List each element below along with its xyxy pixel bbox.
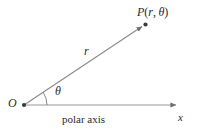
origin-label: O [8, 97, 17, 109]
origin-point-dot [22, 103, 26, 107]
radius-label: r [84, 45, 89, 57]
x-axis-label: x [178, 112, 183, 123]
polar-axis-caption: polar axis [62, 114, 105, 125]
point-p-comma: , [153, 5, 156, 19]
angle-theta-label: θ [55, 85, 61, 97]
angle-arc [43, 92, 47, 105]
radius-ray-line [24, 27, 142, 105]
point-p-close-paren: ) [164, 5, 168, 19]
polar-coordinates-figure: P(r, θ) r θ O x polar axis [0, 0, 199, 133]
point-p-dot [143, 22, 147, 26]
point-p-label: P(r, θ) [137, 6, 168, 18]
